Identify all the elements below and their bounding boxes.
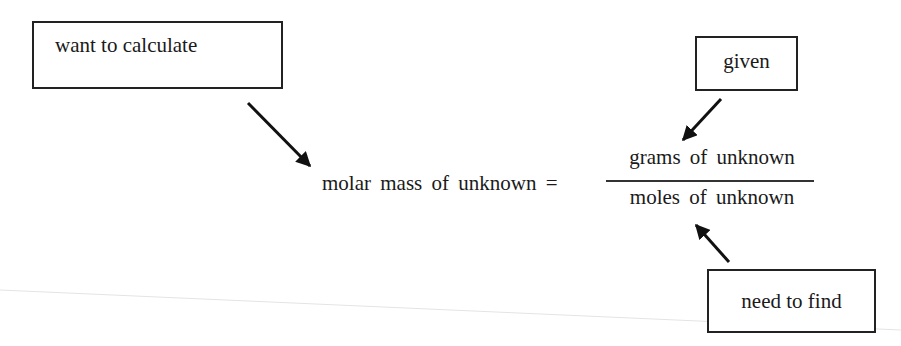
want-to-calculate-box: want to calculate — [32, 21, 283, 89]
equation-numerator: grams of unknown — [612, 145, 812, 170]
arrow-need-to-denominator — [696, 225, 729, 262]
arrow-want-to-lhs — [248, 103, 310, 166]
given-box: given — [695, 36, 798, 91]
want-label: want to calculate — [55, 33, 197, 58]
given-label: given — [697, 49, 796, 74]
need-to-find-box: need to find — [707, 269, 876, 333]
equation-denominator: moles of unknown — [612, 185, 812, 210]
fraction-bar — [606, 180, 814, 182]
equation-lhs: molar mass of unknown = — [322, 171, 558, 196]
arrow-given-to-numerator — [683, 99, 721, 140]
need-label: need to find — [709, 289, 874, 314]
